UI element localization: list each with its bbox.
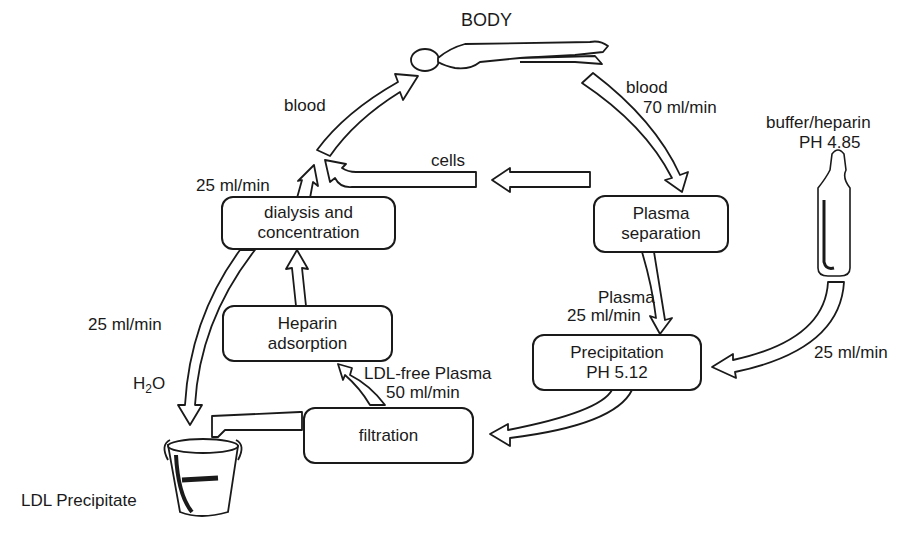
node-line: adsorption: [268, 334, 347, 354]
buffer-ampoule-icon: [818, 150, 850, 276]
cells-label: cells: [431, 151, 465, 170]
node-line: filtration: [359, 426, 419, 446]
node-heparin-adsorption: Heparin adsorption: [222, 305, 393, 362]
plasma-rate: 25 ml/min: [567, 306, 641, 325]
node-filtration: filtration: [303, 407, 474, 464]
buffer-ph: PH 4.85: [799, 133, 860, 152]
node-line: PH 5.12: [586, 363, 647, 383]
node-line: concentration: [257, 223, 359, 243]
plasma-label: Plasma: [598, 288, 655, 307]
dialysis-out-rate: 25 ml/min: [196, 176, 270, 195]
ldl-free-rate: 50 ml/min: [386, 383, 460, 402]
water-o: O: [152, 374, 165, 393]
buffer-label: buffer/heparin: [766, 113, 871, 132]
buffer-arrow: [712, 282, 844, 378]
ldl-precipitate-label: LDL Precipitate: [21, 491, 137, 510]
water-sub: 2: [145, 382, 152, 396]
node-line: separation: [621, 224, 700, 244]
precipitation-to-filtration-arrow: [490, 390, 632, 446]
filtration-to-bucket-arrow: [212, 412, 302, 437]
dialysis-out-arrow: [297, 165, 318, 198]
cells-source-arrow: [492, 168, 590, 192]
heparin-to-dialysis-arrow: [286, 250, 308, 306]
water-flow-rate: 25 ml/min: [88, 315, 162, 334]
node-plasma-separation: Plasma separation: [593, 195, 729, 253]
body-label: BODY: [461, 11, 512, 30]
blood-out-label: blood: [626, 78, 668, 97]
water-label: H2O: [133, 374, 165, 399]
blood-in-label: blood: [284, 96, 326, 115]
node-line: dialysis and: [264, 203, 353, 223]
blood-out-rate: 70 ml/min: [643, 98, 717, 117]
node-line: Heparin: [278, 314, 338, 334]
node-dialysis-concentration: dialysis and concentration: [221, 196, 396, 250]
body-figure-icon: [411, 42, 608, 72]
node-line: Precipitation: [570, 343, 664, 363]
node-line: Plasma: [633, 204, 690, 224]
water-h: H: [133, 374, 145, 393]
node-precipitation: Precipitation PH 5.12: [532, 334, 702, 391]
buffer-flow-rate: 25 ml/min: [814, 343, 888, 362]
bucket-icon: [164, 439, 241, 516]
blood-in-arrow: [317, 74, 418, 156]
ldl-free-label: LDL-free Plasma: [364, 364, 492, 383]
